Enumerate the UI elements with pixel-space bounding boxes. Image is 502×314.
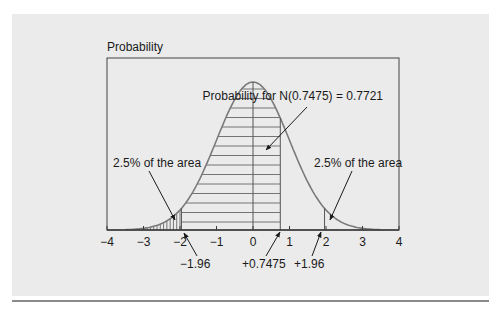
x-tick-label: −1	[210, 235, 224, 249]
z-val-arrow	[266, 232, 280, 256]
y-axis-label: Probability	[107, 40, 163, 54]
z-neg-label: −1.96	[180, 257, 211, 271]
x-tick-label: −4	[100, 235, 114, 249]
right-tail-arrow	[330, 171, 352, 220]
right-tail-annotation: 2.5% of the area	[314, 156, 402, 170]
x-tick-label: −3	[137, 235, 151, 249]
z-val-label: +0.7475	[242, 257, 286, 271]
normal-distribution-chart: Probability −4−3−2−101234 Probability fo…	[0, 0, 502, 314]
x-tick-label: −2	[173, 235, 187, 249]
x-tick-label: 1	[286, 235, 293, 249]
x-tick-label: 2	[323, 235, 330, 249]
x-tick-label: 4	[396, 235, 403, 249]
main-annotation-arrow	[266, 107, 307, 150]
z-pos-label: +1.96	[294, 257, 325, 271]
z-pos-arrow	[312, 232, 321, 256]
left-tail-annotation: 2.5% of the area	[113, 156, 201, 170]
main-annotation: Probability for N(0.7475) = 0.7721	[203, 89, 384, 103]
x-tick-label: 0	[250, 235, 257, 249]
reference-lines	[181, 82, 324, 230]
x-tick-label: 3	[359, 235, 366, 249]
left-tail-arrow	[149, 171, 175, 220]
